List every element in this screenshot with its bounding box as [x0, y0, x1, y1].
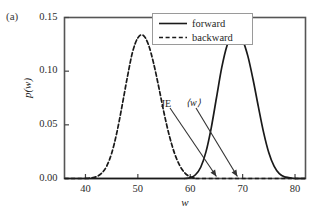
y-axis-title: p(w)	[21, 78, 33, 98]
y-tick-label: 0.05	[0, 118, 58, 129]
figure-panel-a: (a) 0.00 0.05 0.10 0.15 40 50 60 70 80 p…	[0, 0, 332, 215]
x-tick-label: 60	[170, 183, 210, 194]
x-tick-label: 80	[275, 183, 315, 194]
legend-label-backward: backward	[192, 32, 233, 43]
x-tick-label: 70	[223, 183, 263, 194]
annotation-avg-w-label: ⟨w⟩	[186, 97, 201, 108]
y-tick-label: 0.15	[0, 11, 58, 22]
data-curves	[65, 33, 306, 179]
x-tick-label: 40	[65, 183, 105, 194]
legend-label-forward: forward	[192, 18, 225, 29]
x-tick-label: 50	[118, 183, 158, 194]
y-tick-label: 0.00	[0, 172, 58, 183]
annotation-arrows	[170, 108, 237, 177]
annotation-je-label: JE	[161, 98, 171, 109]
x-axis-title: w	[181, 196, 188, 208]
y-tick-label: 0.10	[0, 64, 58, 75]
